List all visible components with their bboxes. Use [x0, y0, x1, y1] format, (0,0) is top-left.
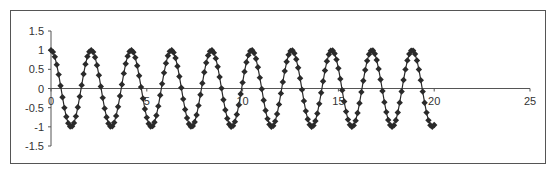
diamond-marker: [243, 59, 249, 65]
diamond-marker: [282, 68, 288, 74]
diamond-marker: [174, 63, 180, 69]
diamond-marker: [94, 62, 100, 68]
diamond-marker: [213, 55, 219, 61]
diamond-marker: [398, 88, 404, 94]
diamond-marker: [100, 95, 106, 101]
diamond-marker: [159, 81, 165, 87]
diamond-marker: [157, 92, 163, 98]
x-tick-label: 0: [48, 95, 54, 107]
diamond-marker: [222, 107, 228, 113]
diamond-marker: [75, 104, 81, 110]
diamond-marker: [303, 108, 309, 114]
diamond-marker: [119, 81, 125, 87]
diamond-marker: [383, 109, 389, 115]
x-tick-label: 10: [236, 95, 248, 107]
diamond-marker: [92, 54, 98, 60]
diamond-marker: [82, 61, 88, 67]
diamond-marker: [314, 110, 320, 116]
diamond-marker: [197, 91, 203, 97]
diamond-marker: [395, 109, 401, 115]
diamond-marker: [280, 79, 286, 85]
diamond-marker: [199, 80, 205, 86]
y-tick-label: 1: [38, 44, 44, 56]
diamond-marker: [138, 84, 144, 90]
diamond-marker: [253, 56, 259, 62]
diamond-marker: [421, 100, 427, 106]
diamond-marker: [255, 64, 261, 70]
diamond-marker: [113, 113, 119, 119]
diamond-marker: [305, 116, 311, 122]
diamond-marker: [324, 58, 330, 64]
diamond-marker: [193, 112, 199, 118]
diamond-marker: [61, 105, 67, 111]
x-tick-label: 20: [428, 95, 440, 107]
diamond-marker: [80, 71, 86, 77]
diamond-marker: [184, 115, 190, 121]
diamond-marker: [155, 103, 161, 109]
diamond-marker: [404, 57, 410, 63]
diamond-marker: [259, 86, 265, 92]
diamond-marker: [278, 90, 284, 96]
diamond-marker: [283, 59, 289, 65]
diamond-marker: [136, 73, 142, 79]
diamond-marker: [182, 106, 188, 112]
diamond-marker: [241, 68, 247, 74]
diamond-marker: [134, 62, 140, 68]
diamond-marker: [123, 60, 129, 66]
diamond-marker: [354, 110, 360, 116]
diamond-marker: [55, 71, 61, 77]
diamond-marker: [101, 105, 107, 111]
x-tick-label: 15: [332, 95, 344, 107]
y-tick-label: -0.5: [25, 102, 44, 114]
diamond-marker: [423, 109, 429, 115]
diamond-marker: [337, 76, 343, 82]
diamond-marker: [224, 115, 230, 121]
diamond-marker: [299, 86, 305, 92]
diamond-marker: [201, 69, 207, 75]
diamond-marker: [375, 66, 381, 72]
diamond-marker: [115, 104, 121, 110]
diamond-marker: [381, 99, 387, 105]
diamond-marker: [73, 113, 79, 119]
diamond-marker: [345, 116, 351, 122]
diamond-marker: [220, 96, 226, 102]
diamond-marker: [316, 101, 322, 107]
y-tick-label: 1.5: [29, 25, 44, 37]
diamond-marker: [153, 112, 159, 118]
chart-axes: [48, 31, 530, 146]
diamond-marker: [295, 65, 301, 71]
diamond-marker: [163, 60, 169, 66]
diamond-marker: [262, 107, 268, 113]
diamond-marker: [343, 108, 349, 114]
diamond-marker: [144, 114, 150, 120]
diamond-marker: [318, 90, 324, 96]
diamond-marker: [420, 88, 426, 94]
y-tick-label: 0: [38, 83, 44, 95]
diamond-marker: [264, 116, 270, 122]
diamond-marker: [360, 77, 366, 83]
diamond-marker: [218, 85, 224, 91]
diamond-marker: [121, 70, 127, 76]
diamond-marker: [364, 58, 370, 64]
diamond-marker: [132, 54, 138, 60]
diamond-marker: [400, 77, 406, 83]
diamond-marker: [374, 57, 380, 63]
diamond-marker: [276, 101, 282, 107]
diamond-marker: [274, 111, 280, 117]
diamond-marker: [418, 77, 424, 83]
diamond-marker: [117, 93, 123, 99]
diamond-marker: [214, 64, 220, 70]
diamond-marker: [178, 85, 184, 91]
diamond-marker: [103, 114, 109, 120]
diamond-marker: [257, 74, 263, 80]
x-tick-label: 25: [524, 95, 536, 107]
diamond-marker: [397, 99, 403, 105]
diamond-marker: [414, 57, 420, 63]
diamond-marker: [216, 74, 222, 80]
diamond-marker: [293, 56, 299, 62]
diamond-marker: [176, 73, 182, 79]
diamond-marker: [358, 89, 364, 95]
diamond-marker: [335, 65, 341, 71]
diamond-marker: [180, 96, 186, 102]
diamond-marker: [96, 72, 102, 78]
